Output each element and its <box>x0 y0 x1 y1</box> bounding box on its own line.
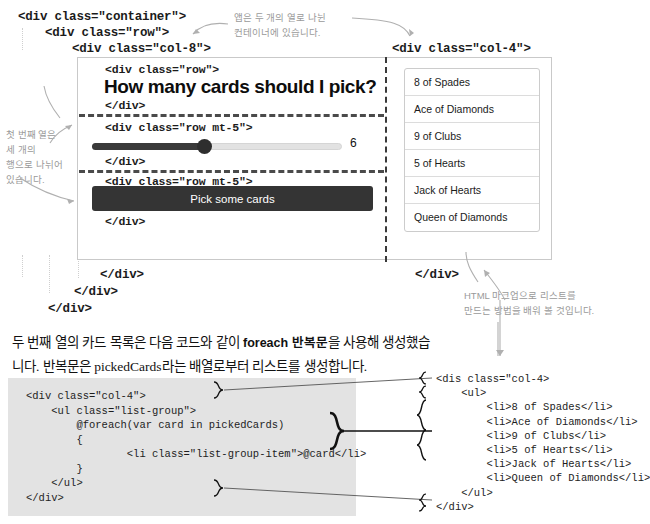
slider-fill <box>92 143 205 150</box>
code-row-mt5-open-1: <div class="row mt-5"> <box>105 121 252 134</box>
list-item[interactable]: Jack of Hearts <box>405 177 539 204</box>
list-item[interactable]: Ace of Diamonds <box>405 96 539 123</box>
app-headline: How many cards should I pick? <box>104 76 376 98</box>
code-row-close-1: </div> <box>105 99 145 112</box>
list-item[interactable]: 5 of Hearts <box>405 150 539 177</box>
indent-guide-3 <box>22 255 23 277</box>
code-col8-close: </div> <box>100 268 144 282</box>
code-row-close-outer: </div> <box>74 285 118 299</box>
list-item[interactable]: Queen of Diamonds <box>405 204 539 231</box>
row-separator-1 <box>79 114 384 117</box>
razor-code-text: <div class="col-4"> <ul class="list-grou… <box>8 378 356 505</box>
pick-some-cards-button[interactable]: Pick some cards <box>92 186 373 211</box>
code-container-close: </div> <box>48 302 92 316</box>
paragraph-line1-a: 두 번째 열의 카드 목록은 다음 코드와 같이 <box>12 335 243 350</box>
code-col4-close: </div> <box>415 268 459 282</box>
list-item[interactable]: 9 of Clubs <box>405 123 539 150</box>
slider-thumb[interactable] <box>197 139 212 154</box>
code-col8-open: <div class="col-8"> <box>72 42 211 56</box>
annotation-bottom-right: HTML 마크업으로 리스트를 만드는 방법을 배워 볼 것입니다. <box>464 288 624 318</box>
annotation-left: 첫 번째 열은 세 개의 행으로 나뉘어 있습니다. <box>6 127 68 187</box>
code-row-close-3: </div> <box>105 215 145 228</box>
razor-code-block: <div class="col-4"> <ul class="list-grou… <box>8 378 356 516</box>
indent-guide-2 <box>49 255 50 293</box>
paragraph-line2: 니다. 반복문은 pickedCards라는 배열로부터 리스트를 생성합니다. <box>12 359 367 374</box>
paragraph-keyword: foreach 반복문 <box>243 336 328 350</box>
picked-cards-list: 8 of Spades Ace of Diamonds 9 of Clubs 5… <box>404 68 540 232</box>
indent-guide-1 <box>22 28 23 50</box>
code-container-open: <div class="container"> <box>18 10 186 24</box>
code-col4-open: <div class="col-4"> <box>392 42 531 56</box>
card-count-slider[interactable] <box>92 139 342 153</box>
row-separator-2 <box>79 170 384 173</box>
code-row-inner-open-1: <div class="row"> <box>105 63 219 76</box>
rendered-html-code: <dis class="col-4> <ul> <li>8 of Spades<… <box>436 372 650 514</box>
code-row-close-2: </div> <box>105 155 145 168</box>
annotation-top-right: 앱은 두 개의 열로 나뉜 컨테이너에 있습니다. <box>234 10 374 40</box>
column-divider <box>385 57 387 262</box>
body-paragraph: 두 번째 열의 카드 목록은 다음 코드와 같이 foreach 반복문을 사용… <box>12 331 482 378</box>
paragraph-line1-c: 을 사용해 생성했습 <box>328 335 431 350</box>
list-item[interactable]: 8 of Spades <box>405 69 539 96</box>
slider-value-label: 6 <box>350 136 357 150</box>
code-row-open: <div class="row"> <box>45 26 169 40</box>
